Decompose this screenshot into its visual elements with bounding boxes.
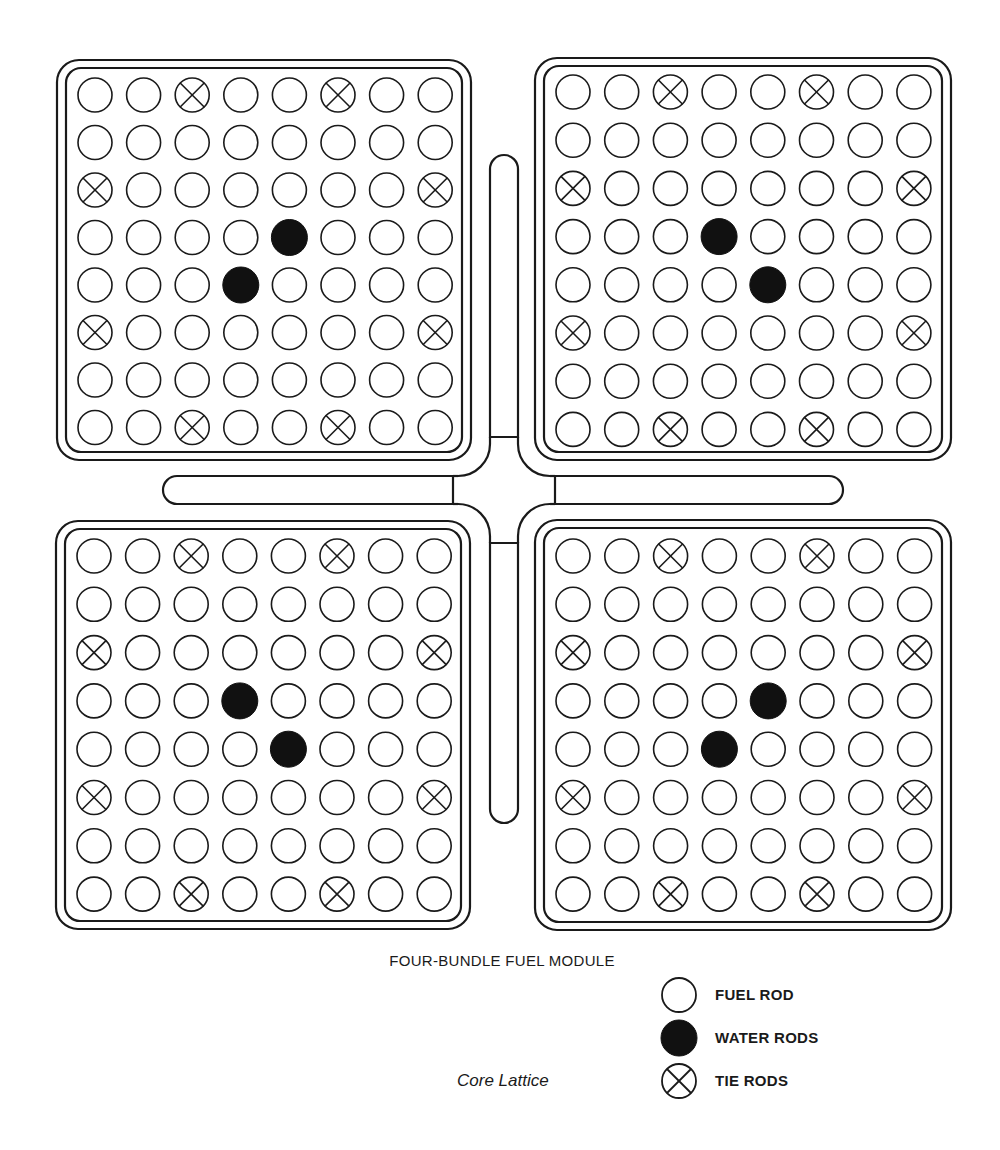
water-rod-icon: [701, 219, 737, 255]
fuel-rod-icon: [370, 411, 404, 445]
tie-rod-icon: [321, 78, 355, 112]
fuel-rod-icon: [271, 636, 305, 670]
fuel-rod-icon: [271, 587, 305, 621]
fuel-rod-icon: [127, 411, 161, 445]
fuel-rod-icon: [653, 123, 687, 157]
fuel-rod-icon: [653, 316, 687, 350]
fuel-rod-icon: [370, 316, 404, 350]
water-rod-icon: [270, 731, 306, 767]
tie-rod-icon: [659, 1061, 699, 1101]
fuel-rod-icon: [417, 539, 451, 573]
tie-rod-icon: [898, 781, 932, 815]
fuel-rod-icon: [848, 316, 882, 350]
fuel-rod-icon: [800, 364, 834, 398]
fuel-rod-icon: [605, 539, 639, 573]
fuel-rod-icon: [224, 173, 258, 207]
fuel-rod-icon: [751, 636, 785, 670]
channel-inner-wall: [544, 66, 942, 452]
fuel-rod-icon: [751, 412, 785, 446]
fuel-rod-icon: [800, 732, 834, 766]
tie-rod-icon: [556, 316, 590, 350]
fuel-rod-icon: [751, 123, 785, 157]
fuel-rod-icon: [800, 781, 834, 815]
fuel-rod-icon: [320, 732, 354, 766]
water-rod-icon: [271, 220, 307, 256]
tie-rod-icon: [418, 316, 452, 350]
fuel-rod-icon: [556, 829, 590, 863]
fuel-rod-icon: [321, 221, 355, 255]
fuel-rod-icon: [605, 587, 639, 621]
fuel-rod-icon: [224, 411, 258, 445]
tie-rod-icon: [175, 78, 209, 112]
fuel-rod-icon: [127, 78, 161, 112]
fuel-rod-icon: [702, 587, 736, 621]
figure-title: FOUR-BUNDLE FUEL MODULE: [0, 952, 1000, 969]
tie-rod-icon: [321, 411, 355, 445]
fuel-rod-icon: [897, 75, 931, 109]
fuel-rod-icon: [174, 587, 208, 621]
fuel-rod-icon: [849, 684, 883, 718]
control-blade-top-arm: [490, 155, 518, 437]
fuel-rod-icon: [271, 829, 305, 863]
fuel-rod-icon: [78, 268, 112, 302]
tie-rod-icon: [320, 877, 354, 911]
fuel-bundle-bottom-left: [56, 521, 470, 929]
water-rod-icon: [659, 1018, 699, 1058]
fuel-rod-icon: [77, 732, 111, 766]
fuel-rod-icon: [653, 364, 687, 398]
fuel-rod-icon: [321, 126, 355, 160]
fuel-rod-icon: [848, 364, 882, 398]
tie-rod-icon: [800, 877, 834, 911]
fuel-rod-icon: [654, 732, 688, 766]
fuel-rod-icon: [702, 877, 736, 911]
tie-rod-icon: [556, 636, 590, 670]
fuel-rod-icon: [751, 781, 785, 815]
fuel-rod-icon: [898, 684, 932, 718]
fuel-rod-icon: [605, 829, 639, 863]
fuel-rod-icon: [418, 126, 452, 160]
fuel-rod-icon: [77, 539, 111, 573]
fuel-rod-icon: [369, 539, 403, 573]
fuel-rod-icon: [418, 221, 452, 255]
fuel-rod-icon: [654, 781, 688, 815]
fuel-rod-icon: [418, 411, 452, 445]
tie-rod-icon: [174, 877, 208, 911]
fuel-rod-icon: [898, 732, 932, 766]
fuel-rod-icon: [272, 268, 306, 302]
tie-rod-icon: [556, 171, 590, 205]
fuel-rod-icon: [898, 877, 932, 911]
fuel-rod-icon: [605, 412, 639, 446]
fuel-rod-icon: [271, 684, 305, 718]
tie-rod-icon: [898, 636, 932, 670]
fuel-rod-icon: [702, 636, 736, 670]
fuel-rod-icon: [659, 975, 699, 1015]
fuel-rod-icon: [369, 732, 403, 766]
fuel-rod-icon: [417, 877, 451, 911]
fuel-rod-icon: [271, 781, 305, 815]
fuel-rod-icon: [800, 220, 834, 254]
fuel-rod-icon: [751, 829, 785, 863]
water-rod-icon: [701, 731, 737, 767]
fuel-rod-icon: [556, 123, 590, 157]
fuel-rod-icon: [127, 363, 161, 397]
fuel-rod-icon: [418, 363, 452, 397]
fuel-rod-icon: [127, 221, 161, 255]
tie-rod-icon: [800, 75, 834, 109]
fuel-rod-icon: [272, 126, 306, 160]
fuel-rod-icon: [272, 78, 306, 112]
fuel-rod-icon: [605, 636, 639, 670]
tie-rod-icon: [556, 781, 590, 815]
fuel-rod-icon: [751, 587, 785, 621]
fuel-rod-icon: [174, 684, 208, 718]
fuel-rod-icon: [321, 363, 355, 397]
fuel-rod-icon: [174, 829, 208, 863]
tie-rod-icon: [800, 412, 834, 446]
fuel-rod-icon: [320, 636, 354, 670]
tie-rod-icon: [654, 877, 688, 911]
fuel-rod-icon: [556, 732, 590, 766]
fuel-rod-icon: [175, 268, 209, 302]
fuel-rod-icon: [897, 364, 931, 398]
channel-inner-wall: [66, 68, 462, 452]
tie-rod-icon: [77, 636, 111, 670]
fuel-rod-icon: [800, 587, 834, 621]
